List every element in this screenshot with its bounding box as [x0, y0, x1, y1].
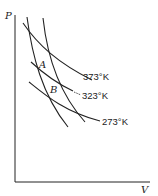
pv-diagram: P V 373°K 323°K 273°K A B — [0, 0, 158, 196]
leader-323 — [74, 92, 81, 95]
point-label-b: B — [49, 84, 57, 95]
point-label-a: A — [38, 59, 46, 70]
y-axis-label: P — [4, 10, 12, 21]
isotherm-label-373: 373°K — [83, 71, 110, 82]
isotherm-label-273: 273°K — [102, 116, 129, 127]
x-axis-label: V — [141, 184, 150, 195]
adiabat-1 — [27, 17, 68, 127]
isotherm-273 — [29, 82, 100, 121]
isotherm-label-323: 323°K — [82, 90, 109, 101]
